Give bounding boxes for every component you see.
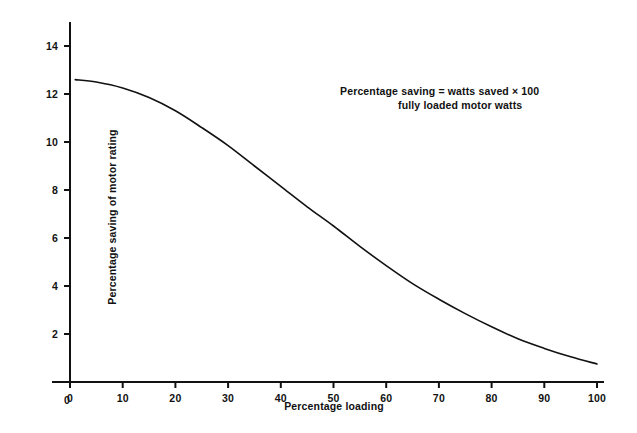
- x-axis-tick-label: 100: [588, 392, 606, 404]
- y-axis-tick-label: 4: [24, 280, 58, 292]
- x-axis-tick-label: 0: [67, 392, 73, 404]
- formula-numerator: Percentage saving = watts saved × 100: [340, 85, 539, 97]
- y-axis-tick-label: 2: [24, 328, 58, 340]
- x-axis-tick-label: 20: [169, 392, 181, 404]
- y-axis-tick-label: 12: [24, 88, 58, 100]
- y-axis-tick-label: 8: [24, 184, 58, 196]
- x-axis-tick-label: 10: [117, 392, 129, 404]
- x-axis-tick-label: 30: [222, 392, 234, 404]
- y-axis-tick-label: 6: [24, 232, 58, 244]
- axes-group: [52, 22, 604, 382]
- formula-denominator: fully loaded motor watts: [340, 98, 539, 112]
- y-axis-title: Percentage saving of motor rating: [106, 129, 118, 304]
- data-series-line: [75, 80, 597, 364]
- y-axis-tick-label: 10: [24, 136, 58, 148]
- chart-plot-area: [0, 0, 637, 433]
- chart-container: 02468101214 0102030405060708090100 Perce…: [0, 0, 637, 433]
- x-axis-tick-label: 80: [486, 392, 498, 404]
- x-axis-tick-label: 70: [433, 392, 445, 404]
- formula-annotation: Percentage saving = watts saved × 100 fu…: [340, 84, 539, 112]
- x-axis-title: Percentage loading: [284, 400, 384, 412]
- x-axis-tick-label: 90: [538, 392, 550, 404]
- y-axis-tick-label: 14: [24, 40, 58, 52]
